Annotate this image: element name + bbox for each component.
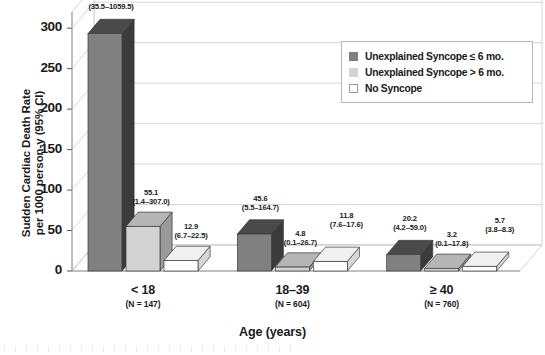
bar-value: 5.7 [495,216,505,225]
bar-confidence-interval: (3.8–8.3) [485,225,514,234]
y-axis-tick-250: 250 [28,60,62,75]
bar-value: 55.1 [144,188,158,197]
y-axis-tick-150: 150 [28,141,62,156]
x-axis-category-1: < 18(N = 147) [88,283,198,309]
bar-value: 20.2 [403,214,417,223]
legend-item-no-syncope[interactable]: No Syncope [349,80,525,96]
y-axis-title: Sudden Cardiac Death Rate per 1000 perso… [20,38,46,288]
legend-swatch-series-3 [349,84,358,93]
legend-swatch-series-2 [349,68,358,77]
scan-artifact [0,346,300,352]
x-axis-category-label: 18–39 [237,283,347,297]
x-axis-category-count: (N = 147) [88,299,198,309]
bar-data-label: 55.1(1.4–307.0) [111,188,191,206]
bar-data-label: 12.9(6.7–22.5) [151,222,231,240]
y-axis-tick-100: 100 [28,181,62,196]
x-axis-category-2: 18–39(N = 604) [237,283,347,309]
chart-legend: Unexplained Syncope ≤ 6 mo. Unexplained … [341,41,533,103]
bar-value: 12.9 [184,222,198,231]
x-axis-category-count: (N = 604) [237,299,347,309]
bar-confidence-interval: (0.1–26.7) [284,238,317,247]
bar-value: 11.8 [339,211,353,220]
legend-item-unexplained-syncope-gt-6mo[interactable]: Unexplained Syncope > 6 mo. [349,64,525,80]
y-axis-tick-200: 200 [28,100,62,115]
bar-data-label: 45.6(5.5–164.7) [220,194,300,212]
bar-confidence-interval: (0.1–17.8) [435,239,468,248]
bar-confidence-interval: (5.5–164.7) [242,203,279,212]
bar-confidence-interval: (7.6–17.6) [330,220,363,229]
y-axis-tick-0: 0 [28,262,62,277]
bar-value: 45.6 [253,194,267,203]
bar-data-label: 293.3(35.5–1059.5) [71,0,151,11]
legend-label-series-2: Unexplained Syncope > 6 mo. [365,67,504,78]
bar-confidence-interval: (1.4–307.0) [132,197,169,206]
bar-data-label: 4.8(0.1–26.7) [260,229,340,247]
legend-swatch-series-1 [349,52,358,61]
legend-label-series-3: No Syncope [365,83,422,94]
x-axis-category-3: ≥ 40(N = 760) [387,283,497,309]
legend-label-series-1: Unexplained Syncope ≤ 6 mo. [365,51,504,62]
x-axis-category-count: (N = 760) [387,299,497,309]
legend-item-unexplained-syncope-le-6mo[interactable]: Unexplained Syncope ≤ 6 mo. [349,48,525,64]
chart-container: Sudden Cardiac Death Rate per 1000 perso… [0,0,545,355]
x-axis-title: Age (years) [0,325,545,339]
bar-value: 4.8 [295,229,305,238]
y-axis-tick-300: 300 [28,19,62,34]
bar-value: 3.2 [447,230,457,239]
bar-confidence-interval: (6.7–22.5) [174,231,207,240]
x-axis-category-label: < 18 [88,283,198,297]
y-axis-tick-50: 50 [28,222,62,237]
bar-data-label: 5.7(3.8–8.3) [460,216,540,234]
bar-confidence-interval: (35.5–1059.5) [88,2,133,11]
x-axis-category-label: ≥ 40 [387,283,497,297]
